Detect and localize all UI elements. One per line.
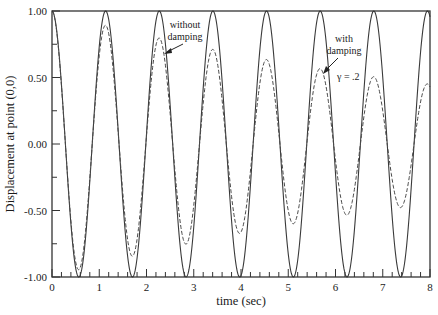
series-with-damping [52,11,430,270]
y-tick-label: -0.50 [24,205,47,217]
x-tick-label: 7 [380,281,386,293]
annotation-without-damping: without damping [164,19,203,54]
x-tick-label: 4 [238,281,244,293]
annotation-without-label-2: damping [168,31,203,42]
x-tick-label: 0 [49,281,55,293]
x-tick-label: 1 [97,281,103,293]
y-axis-title: Displacement at point (0,0) [3,76,17,213]
x-axis-label: time (sec) [216,294,266,308]
y-tick-label: -1.00 [24,271,47,283]
axis-ticks [52,11,430,277]
gamma-label: γ = .2 [336,71,360,82]
x-tick-label: 5 [286,281,292,293]
x-tick-label: 2 [144,281,150,293]
plot-frame [52,11,430,277]
x-tick-labels: 012345678 [49,281,433,293]
arrowhead-icon [164,48,172,54]
plot-curves [52,11,430,277]
y-tick-label: 0.50 [28,72,48,84]
x-tick-label: 6 [333,281,339,293]
x-tick-label: 8 [427,281,433,293]
annotation-with-label-2: damping [327,45,362,56]
annotation-without-label-1: without [170,19,201,30]
damping-chart: Displacement at point (0,0) time (sec) 1… [0,0,438,315]
y-axis-label: Displacement at point (0,0) [3,76,17,213]
x-tick-label: 3 [191,281,197,293]
y-tick-label: 0.00 [28,138,48,150]
y-tick-label: 1.00 [28,5,48,17]
annotation-with-label-1: with [335,33,353,44]
y-tick-labels: 1.000.500.00-0.50-1.00 [24,5,47,283]
series-without-damping [52,11,430,277]
